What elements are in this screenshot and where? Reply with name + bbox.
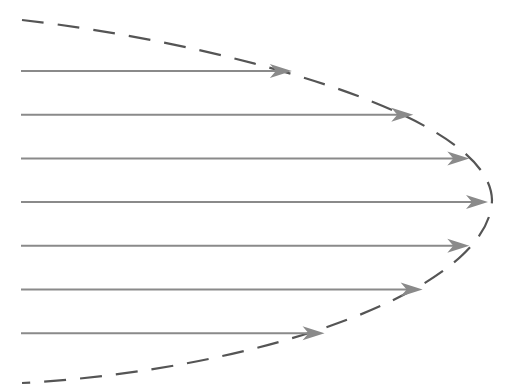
arrow-4 — [21, 195, 488, 209]
arrow-3 — [21, 151, 469, 165]
velocity-arrows — [21, 64, 488, 340]
arrow-2 — [21, 108, 413, 122]
arrow-7 — [21, 326, 325, 340]
velocity-profile-diagram — [0, 0, 518, 390]
arrow-6 — [21, 283, 423, 297]
arrow-1 — [21, 64, 292, 78]
arrow-5 — [21, 239, 469, 253]
